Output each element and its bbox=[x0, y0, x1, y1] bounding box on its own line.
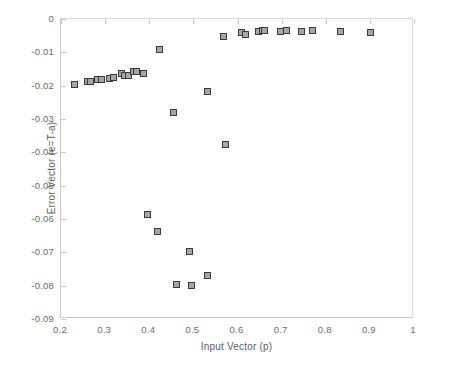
y-axis-tick-label: -0.08 bbox=[31, 279, 54, 290]
data-point-marker bbox=[309, 27, 316, 34]
y-axis-tick-label: -0.03 bbox=[31, 113, 54, 124]
y-axis-tick-label: -0.01 bbox=[31, 46, 54, 57]
y-axis-tick bbox=[61, 219, 66, 220]
x-axis-tick bbox=[105, 19, 106, 24]
data-point-marker bbox=[242, 31, 249, 38]
x-axis-tick-label: 0.7 bbox=[274, 324, 288, 335]
data-point-marker bbox=[186, 248, 193, 255]
y-axis-tick-label: 0 bbox=[49, 13, 54, 24]
x-axis-tick-label: 0.9 bbox=[362, 324, 376, 335]
data-point-marker bbox=[110, 74, 117, 81]
y-axis-tick bbox=[61, 119, 66, 120]
y-axis-tick-label: -0.06 bbox=[31, 213, 54, 224]
data-point-marker bbox=[173, 281, 180, 288]
data-point-marker bbox=[87, 78, 94, 85]
x-axis-tick bbox=[282, 19, 283, 24]
data-point-marker bbox=[156, 46, 163, 53]
data-point-marker bbox=[98, 76, 105, 83]
data-point-marker bbox=[204, 88, 211, 95]
data-point-marker bbox=[140, 70, 147, 77]
data-point-marker bbox=[222, 141, 229, 148]
data-point-marker bbox=[71, 81, 78, 88]
data-point-marker bbox=[188, 282, 195, 289]
data-point-marker bbox=[298, 28, 305, 35]
x-axis-tick-label: 0.4 bbox=[141, 324, 155, 335]
data-point-marker bbox=[337, 28, 344, 35]
y-axis-tick bbox=[61, 186, 66, 187]
y-axis-tick bbox=[61, 86, 66, 87]
y-axis-tick-label: -0.09 bbox=[31, 313, 54, 324]
y-axis-tick-label: -0.07 bbox=[31, 246, 54, 257]
x-axis-tick-label: 1 bbox=[410, 324, 415, 335]
y-axis-tick-label: -0.02 bbox=[31, 79, 54, 90]
data-point-marker bbox=[220, 33, 227, 40]
data-point-marker bbox=[204, 272, 211, 279]
x-axis-tick bbox=[326, 19, 327, 24]
data-point-marker bbox=[170, 109, 177, 116]
plot-area bbox=[60, 18, 413, 318]
x-axis-tick bbox=[193, 19, 194, 24]
scatter-chart-figure: Error Vector (e=T-a) Input Vector (p) 0.… bbox=[0, 0, 455, 365]
y-axis-tick bbox=[61, 152, 66, 153]
data-point-marker bbox=[283, 27, 290, 34]
x-axis-tick-label: 0.6 bbox=[230, 324, 244, 335]
y-axis-tick bbox=[61, 319, 66, 320]
data-point-marker bbox=[144, 211, 151, 218]
x-axis-tick-label: 0.5 bbox=[185, 324, 199, 335]
y-axis-tick bbox=[61, 19, 66, 20]
data-point-marker bbox=[367, 29, 374, 36]
x-axis-title: Input Vector (p) bbox=[60, 341, 413, 352]
y-axis-tick bbox=[61, 52, 66, 53]
x-axis-tick-label: 0.2 bbox=[53, 324, 67, 335]
data-point-marker bbox=[154, 228, 161, 235]
data-point-marker bbox=[261, 27, 268, 34]
x-axis-tick bbox=[149, 19, 150, 24]
x-axis-tick bbox=[370, 19, 371, 24]
y-axis-tick bbox=[61, 286, 66, 287]
x-axis-tick bbox=[238, 19, 239, 24]
y-axis-title: Error Vector (e=T-a) bbox=[46, 122, 57, 215]
x-axis-tick bbox=[414, 19, 415, 24]
x-axis-tick-label: 0.8 bbox=[318, 324, 332, 335]
x-axis-tick-label: 0.3 bbox=[97, 324, 111, 335]
y-axis-tick-label: -0.05 bbox=[31, 179, 54, 190]
y-axis-tick-label: -0.04 bbox=[31, 146, 54, 157]
y-axis-tick bbox=[61, 252, 66, 253]
